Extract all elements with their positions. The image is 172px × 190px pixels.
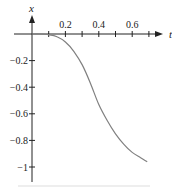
x-axis-arrow-icon (155, 31, 163, 37)
y-axis-arrow-icon (29, 15, 35, 23)
x-tick-label: 0.6 (126, 19, 139, 30)
y-tick-label: −1 (17, 162, 28, 173)
x-axis-label: t (169, 28, 172, 40)
y-tick-label: −0.4 (10, 82, 28, 93)
chart: 0.20.40.6−0.2−0.4−0.6−0.8−1 x t (0, 0, 172, 190)
axes (14, 15, 163, 182)
data-curve (32, 34, 147, 162)
x-tick-label: 0.2 (59, 19, 72, 30)
x-tick-label: 0.4 (93, 19, 106, 30)
y-axis-label: x (28, 2, 34, 14)
y-tick-label: −0.6 (10, 108, 28, 119)
tick-labels: 0.20.40.6−0.2−0.4−0.6−0.8−1 (10, 19, 139, 173)
ticks (29, 31, 149, 167)
y-tick-label: −0.8 (10, 135, 28, 146)
y-tick-label: −0.2 (10, 55, 28, 66)
